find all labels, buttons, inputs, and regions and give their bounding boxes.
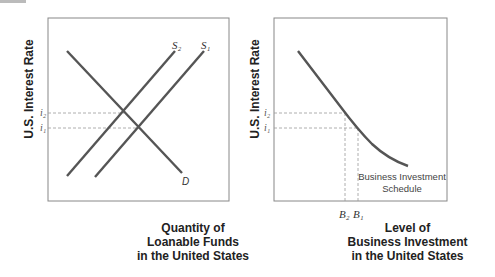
s1-label: S₁ — [201, 39, 211, 51]
right-i1-label: i₁ — [264, 122, 270, 133]
right-xlabel-line-1: Level of — [340, 221, 475, 235]
business-investment-curve — [298, 51, 408, 166]
right-i2-label: i₂ — [264, 107, 271, 118]
b2-label: B₂ — [339, 208, 350, 220]
left-xlabel-line-1: Quantity of — [118, 221, 268, 235]
curve-label-line-2: Schedule — [382, 183, 422, 194]
b1-label: B₁ — [353, 208, 364, 220]
left-xlabel-line-2: Loanable Funds — [118, 235, 268, 249]
right-xlabel-line-3: in the United States — [340, 249, 475, 263]
right-xlabel-line-2: Business Investment — [340, 235, 475, 249]
left-i1-label: i₁ — [40, 122, 46, 133]
left-xlabel-line-3: in the United States — [118, 249, 268, 263]
left-chart: i₂ i₁ S₂ S₁ D — [40, 18, 229, 201]
left-i2-label: i₂ — [40, 107, 47, 118]
right-chart: i₂ i₁ B₂ B₁ Business Investment Schedule — [264, 18, 447, 220]
supply-curve-S1 — [95, 51, 204, 177]
right-x-axis-label: Level of Business Investment in the Unit… — [340, 221, 475, 263]
curve-label-line-1: Business Investment — [358, 171, 446, 182]
left-y-axis-label: U.S. Interest Rate — [22, 34, 36, 144]
right-y-axis-label: U.S. Interest Rate — [248, 34, 262, 144]
d-label: D — [182, 176, 189, 187]
s2-label: S₂ — [172, 39, 182, 51]
left-x-axis-label: Quantity of Loanable Funds in the United… — [118, 221, 268, 263]
